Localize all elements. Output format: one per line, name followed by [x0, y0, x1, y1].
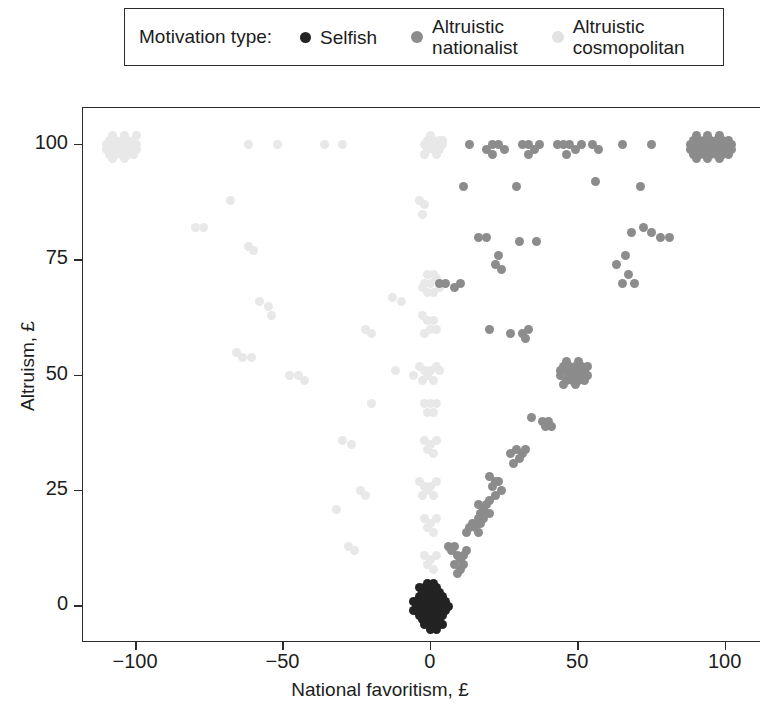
legend-label-line1: Altruistic — [573, 16, 645, 37]
data-point — [612, 260, 621, 269]
data-point — [300, 376, 309, 385]
y-axis-tick-label: 100 — [8, 131, 68, 154]
data-point — [391, 366, 400, 375]
data-point — [429, 565, 438, 574]
x-axis-label: National favoritism, £ — [0, 679, 760, 701]
data-point — [485, 325, 494, 334]
data-point — [429, 376, 438, 385]
data-point — [432, 625, 441, 634]
x-axis-tick-label: −100 — [95, 650, 175, 673]
y-axis-tick-label: 0 — [8, 592, 68, 615]
data-point — [441, 279, 450, 288]
data-point — [418, 491, 427, 500]
data-point — [562, 150, 571, 159]
data-point — [692, 131, 701, 140]
data-point — [532, 237, 541, 246]
x-axis-tick — [725, 642, 727, 650]
y-axis-tick — [74, 605, 82, 607]
filled-circle-marker-icon — [552, 31, 564, 43]
data-point — [409, 606, 418, 615]
x-axis-tick — [577, 642, 579, 650]
data-point — [429, 449, 438, 458]
plot-area — [82, 107, 760, 642]
data-point — [591, 177, 600, 186]
data-point — [494, 477, 503, 486]
data-point — [524, 325, 533, 334]
legend-label-line1: Selfish — [320, 27, 377, 48]
data-point — [556, 371, 565, 380]
data-point — [497, 265, 506, 274]
data-point — [199, 223, 208, 232]
data-point — [724, 150, 733, 159]
data-point — [420, 329, 429, 338]
data-point — [459, 560, 468, 569]
data-points-layer — [83, 108, 760, 641]
data-point — [515, 237, 524, 246]
data-point — [512, 182, 521, 191]
x-axis-tick-label: 100 — [685, 650, 760, 673]
legend-label-line2: nationalist — [432, 37, 518, 58]
data-point — [420, 200, 429, 209]
data-point — [453, 569, 462, 578]
data-point — [432, 477, 441, 486]
data-point — [429, 579, 438, 588]
data-point — [432, 514, 441, 523]
data-point — [238, 353, 247, 362]
data-point — [388, 293, 397, 302]
data-point — [692, 154, 701, 163]
x-axis-tick-label: 0 — [390, 650, 470, 673]
data-point — [618, 279, 627, 288]
data-point — [627, 228, 636, 237]
data-point — [264, 302, 273, 311]
y-axis-tick-label: 25 — [8, 477, 68, 500]
data-point — [429, 408, 438, 417]
x-axis-tick-label: 50 — [537, 650, 617, 673]
data-point — [432, 399, 441, 408]
data-point — [594, 145, 603, 154]
y-axis-tick — [74, 259, 82, 261]
data-point — [247, 353, 256, 362]
y-axis-tick — [74, 375, 82, 377]
data-point — [432, 436, 441, 445]
data-point — [338, 436, 347, 445]
data-point — [459, 182, 468, 191]
data-point — [574, 357, 583, 366]
legend-label-line2: cosmopolitan — [573, 37, 685, 58]
data-point — [361, 491, 370, 500]
data-point — [129, 150, 138, 159]
data-point — [418, 210, 427, 219]
data-point — [465, 140, 474, 149]
data-point — [429, 270, 438, 279]
data-point — [432, 325, 441, 334]
legend-label-altruistic-cosmopolitan: Altruistic cosmopolitan — [573, 16, 685, 58]
data-point — [624, 270, 633, 279]
data-point — [630, 279, 639, 288]
data-point — [647, 140, 656, 149]
data-point — [527, 413, 536, 422]
legend-title: Motivation type: — [139, 26, 272, 48]
data-point — [429, 528, 438, 537]
data-point — [521, 445, 530, 454]
data-point — [108, 154, 117, 163]
data-point — [409, 371, 418, 380]
data-point — [132, 131, 141, 140]
data-point — [621, 251, 630, 260]
data-point — [474, 233, 483, 242]
data-point — [120, 131, 129, 140]
data-point — [509, 459, 518, 468]
data-point — [547, 422, 556, 431]
data-point — [429, 316, 438, 325]
data-point — [429, 491, 438, 500]
data-point — [432, 551, 441, 560]
data-point — [418, 283, 427, 292]
y-axis-label: Altruism, £ — [17, 286, 39, 446]
data-point — [559, 380, 568, 389]
data-point — [332, 505, 341, 514]
legend-label-line1: Altruistic — [432, 16, 504, 37]
data-point — [524, 150, 533, 159]
data-point — [656, 233, 665, 242]
data-point — [500, 145, 509, 154]
legend-label-altruistic-nationalist: Altruistic nationalist — [432, 16, 518, 58]
data-point — [474, 528, 483, 537]
data-point — [665, 233, 674, 242]
